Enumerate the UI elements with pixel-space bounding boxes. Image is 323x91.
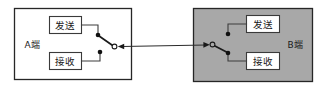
panel-b-label: B端 xyxy=(287,39,302,50)
switch-b-pole[interactable] xyxy=(210,42,215,47)
box-b-send-label: 发送 xyxy=(253,19,274,30)
box-b-send: 发送 xyxy=(247,16,280,33)
switch-a-pole[interactable] xyxy=(112,44,117,49)
box-b-receive: 接收 xyxy=(247,53,280,70)
diagram-canvas: A端 发送 接收 xyxy=(0,0,323,91)
box-b-receive-label: 接收 xyxy=(253,56,274,67)
box-a-receive: 接收 xyxy=(50,53,82,70)
panel-a-label: A端 xyxy=(24,39,39,50)
switch-a-terminal-send[interactable] xyxy=(96,33,101,38)
switch-a-terminal-receive[interactable] xyxy=(98,50,103,55)
box-a-receive-label: 接收 xyxy=(55,56,76,67)
switching-diagram: A端 发送 接收 xyxy=(0,0,323,91)
box-a-send-label: 发送 xyxy=(55,20,76,31)
box-a-send: 发送 xyxy=(50,17,82,34)
switch-b-terminal-receive[interactable] xyxy=(226,51,231,56)
panel-a: A端 发送 接收 xyxy=(15,9,132,80)
switch-b-terminal-send[interactable] xyxy=(226,32,231,37)
panel-b: B端 发送 接收 xyxy=(194,9,313,82)
